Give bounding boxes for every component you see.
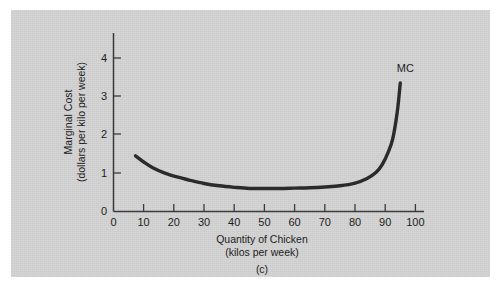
marginal-cost-chart: 4 3 2 1 0 0 10 20 30 40 50 60 7 xyxy=(0,0,504,298)
x-tick-label-10: 10 xyxy=(137,216,149,228)
y-axis-title: Marginal Cost (dollars per kilo per week… xyxy=(62,62,87,182)
x-axis-title: Quantity of Chicken (kilos per week) xyxy=(216,233,308,258)
x-tick-label-70: 70 xyxy=(319,216,331,228)
y-tick-label-2: 2 xyxy=(101,128,107,140)
mc-series-label: MC xyxy=(397,62,414,74)
figure-root: 4 3 2 1 0 0 10 20 30 40 50 60 7 xyxy=(0,0,504,298)
y-tick-label-1: 1 xyxy=(101,167,107,179)
y-tick-label-4: 4 xyxy=(101,52,107,64)
x-tick-label-100: 100 xyxy=(406,216,424,228)
x-tick-label-0: 0 xyxy=(110,216,116,228)
x-tick-label-60: 60 xyxy=(288,216,300,228)
x-axis-tick-labels: 0 10 20 30 40 50 60 70 80 90 100 xyxy=(110,216,424,228)
x-tick-label-30: 30 xyxy=(198,216,210,228)
mc-curve xyxy=(136,83,401,189)
y-tick-label-0: 0 xyxy=(101,205,107,217)
y-axis-title-line2: (dollars per kilo per week) xyxy=(75,62,87,182)
x-tick-label-20: 20 xyxy=(168,216,180,228)
y-tick-label-3: 3 xyxy=(101,90,107,102)
figure-caption: (c) xyxy=(256,263,268,275)
y-axis-title-line1: Marginal Cost xyxy=(62,90,74,155)
x-axis-title-line2: (kilos per week) xyxy=(225,246,299,258)
y-axis-ticks xyxy=(114,58,122,173)
x-axis-ticks xyxy=(144,204,416,212)
x-tick-label-80: 80 xyxy=(349,216,361,228)
x-axis-title-line1: Quantity of Chicken xyxy=(216,233,308,245)
x-tick-label-90: 90 xyxy=(379,216,391,228)
x-tick-label-50: 50 xyxy=(258,216,270,228)
y-axis-tick-labels: 4 3 2 1 0 xyxy=(101,52,107,217)
x-tick-label-40: 40 xyxy=(228,216,240,228)
